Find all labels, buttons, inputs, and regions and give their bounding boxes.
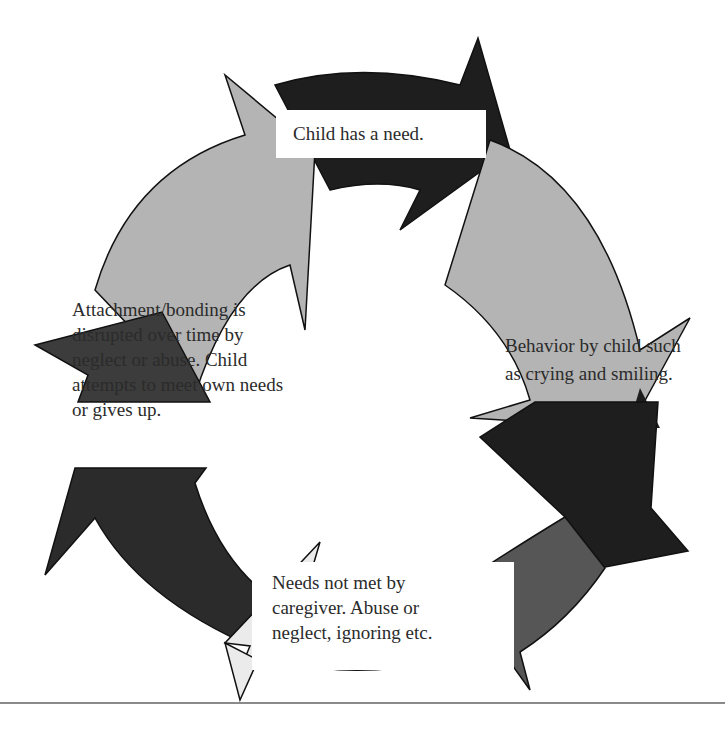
- bottom-divider: [0, 702, 725, 704]
- step-bottom-box: Needs not met by caregiver. Abuse or neg…: [252, 562, 514, 670]
- step-top-label: Child has a need.: [293, 121, 424, 146]
- cycle-diagram: Child has a need. Behavior by child such…: [0, 0, 725, 734]
- step-left-label: Attachment/bonding is disrupted over tim…: [72, 297, 347, 422]
- step-right-label: Behavior by child such as crying and smi…: [505, 332, 725, 388]
- step-top-box: Child has a need.: [276, 110, 486, 158]
